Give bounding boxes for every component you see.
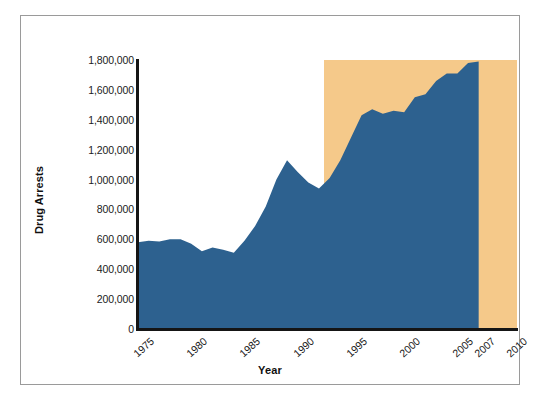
x-tick-label: 1990	[291, 335, 316, 359]
x-tick-label: 2007	[472, 335, 497, 359]
x-tick-label: 1980	[184, 335, 209, 359]
x-tick-label: 2010	[504, 335, 529, 359]
x-tick-label: 2000	[397, 335, 422, 359]
chart-frame: 0200,000400,000600,000800,0001,000,0001,…	[20, 15, 520, 385]
x-axis-tick-labels: 197519801985199019952000200520072010	[21, 16, 519, 384]
x-axis-title: Year	[21, 364, 519, 376]
x-tick-label: 1995	[344, 335, 369, 359]
x-tick-label: 2005	[450, 335, 475, 359]
x-tick-label: 1985	[237, 335, 262, 359]
x-tick-label: 1975	[131, 335, 156, 359]
y-axis-title: Drug Arrests	[33, 166, 45, 234]
